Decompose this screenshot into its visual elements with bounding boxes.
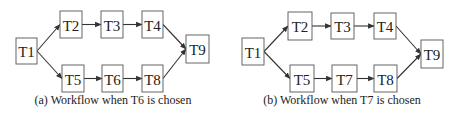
workflow-diagram-b: T1T2T3T4T5T7T8T9 [242, 12, 443, 92]
caption-b: (b) Workflow when T7 is chosen [263, 93, 421, 107]
edge-t1-t2-arrow-icon [37, 25, 60, 52]
edge-t8-t9-arrow-icon [397, 54, 421, 79]
task-node-t8: T8 [142, 65, 163, 92]
edge-t4-t9-arrow-icon [396, 26, 421, 54]
task-node-t5: T5 [62, 65, 84, 92]
edge-t4-t9-arrow-icon [163, 25, 186, 50]
task-node-t6: T6 [102, 65, 123, 92]
task-label: T1 [18, 44, 35, 60]
caption-a: (a) Workflow when T6 is chosen [35, 93, 192, 107]
edge-t1-t2-arrow-icon [264, 26, 288, 52]
task-label: T5 [65, 72, 82, 88]
edge-t1-t5-arrow-icon [37, 51, 62, 79]
task-node-t3: T3 [101, 11, 123, 38]
edge-t1-t5-arrow-icon [264, 52, 290, 79]
task-label: T2 [63, 18, 80, 34]
task-node-t7: T7 [332, 65, 357, 92]
task-node-t9: T9 [186, 35, 209, 63]
task-node-t2: T2 [288, 12, 312, 40]
workflow-figure: T1T2T3T4T5T6T8T9 T1T2T3T4T5T7T8T9 (a) Wo… [0, 0, 457, 116]
task-label: T3 [334, 19, 351, 35]
edge-t8-t9-arrow-icon [163, 49, 186, 79]
task-label: T2 [292, 19, 309, 35]
task-label: T3 [104, 18, 121, 34]
task-label: T8 [144, 72, 161, 88]
task-node-t8: T8 [374, 65, 397, 92]
task-label: T6 [104, 72, 121, 88]
task-label: T9 [189, 42, 206, 58]
task-node-t3: T3 [331, 13, 354, 39]
task-node-t1: T1 [16, 38, 37, 64]
task-label: T4 [377, 19, 394, 35]
task-node-t2: T2 [60, 11, 82, 38]
task-label: T9 [424, 47, 441, 63]
task-label: T8 [377, 72, 394, 88]
task-label: T7 [336, 72, 353, 88]
task-label: T4 [144, 18, 161, 34]
task-node-t9: T9 [421, 40, 443, 68]
task-label: T1 [245, 45, 262, 61]
task-node-t1: T1 [242, 38, 264, 65]
task-node-t4: T4 [142, 11, 163, 38]
workflow-diagram-a: T1T2T3T4T5T6T8T9 [16, 11, 209, 92]
task-node-t5: T5 [290, 65, 314, 92]
task-node-t4: T4 [374, 13, 396, 39]
task-label: T5 [294, 72, 311, 88]
